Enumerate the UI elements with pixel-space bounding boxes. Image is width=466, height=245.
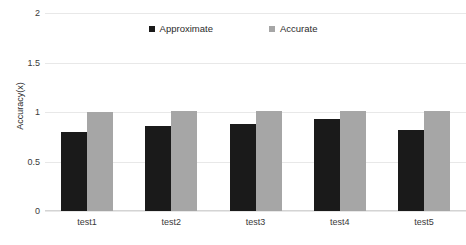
y-axis-tick-label: 0.5 xyxy=(0,157,45,166)
bar[interactable] xyxy=(230,124,256,211)
bar[interactable] xyxy=(171,111,197,211)
bar-group xyxy=(382,13,466,211)
bar-chart: Accuracy(x) 00.511.52 test1test2test3tes… xyxy=(0,0,466,245)
gridline xyxy=(45,211,466,212)
bar[interactable] xyxy=(87,112,113,211)
plot-area xyxy=(45,13,466,211)
y-axis-tick-labels: 00.511.52 xyxy=(0,0,45,245)
x-axis-tick-label: test4 xyxy=(298,213,382,231)
y-axis-tick-label: 1.5 xyxy=(0,58,45,67)
x-axis-tick-label: test5 xyxy=(382,213,466,231)
y-axis-tick-label: 0 xyxy=(0,207,45,216)
x-axis-tick-label: test2 xyxy=(129,213,213,231)
x-axis-tick-label: test3 xyxy=(213,213,297,231)
bar[interactable] xyxy=(340,111,366,211)
bar[interactable] xyxy=(398,130,424,211)
bars-layer xyxy=(45,13,466,211)
bar-group xyxy=(129,13,213,211)
bar-group xyxy=(213,13,297,211)
bar[interactable] xyxy=(424,111,450,211)
y-axis-tick-label: 2 xyxy=(0,9,45,18)
x-axis-tick-labels: test1test2test3test4test5 xyxy=(45,213,466,231)
bar[interactable] xyxy=(256,111,282,211)
bar-group xyxy=(298,13,382,211)
x-axis-tick-label: test1 xyxy=(45,213,129,231)
bar[interactable] xyxy=(314,119,340,211)
bar-group xyxy=(45,13,129,211)
bar[interactable] xyxy=(145,126,171,211)
y-axis-tick-label: 1 xyxy=(0,108,45,117)
bar[interactable] xyxy=(61,132,87,211)
